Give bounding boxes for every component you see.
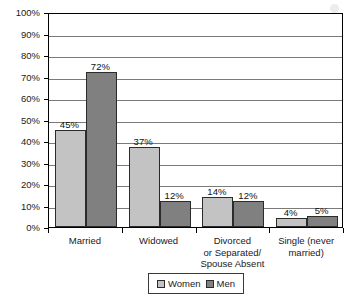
x-tick-mark xyxy=(196,228,197,233)
x-category-label-line: Single (never xyxy=(259,235,353,247)
bar-value-label: 14% xyxy=(201,186,233,197)
y-tick-label: 90% xyxy=(21,29,40,40)
bar-women-0[interactable] xyxy=(55,130,86,227)
y-tick-label: 20% xyxy=(21,179,40,190)
legend-swatch-women xyxy=(157,280,165,288)
scan-artifact xyxy=(330,4,339,13)
bar-value-label: 37% xyxy=(127,136,159,147)
y-tick-label: 30% xyxy=(21,158,40,169)
y-tick-label: 40% xyxy=(21,136,40,147)
legend-swatch-men xyxy=(206,280,214,288)
gridline xyxy=(49,57,342,58)
x-category-label-line: married) xyxy=(259,247,353,259)
plot-area xyxy=(48,13,343,228)
x-category-label-line: Spouse Absent xyxy=(186,258,280,270)
x-tick-mark xyxy=(269,228,270,233)
y-tick-label: 50% xyxy=(21,115,40,126)
y-tick-label: 60% xyxy=(21,93,40,104)
bar-women-2[interactable] xyxy=(202,197,233,227)
bar-chart: Percent of Older Population 0%10%20%30%4… xyxy=(0,0,359,299)
x-tick-mark xyxy=(122,228,123,233)
bar-men-2[interactable] xyxy=(233,201,264,227)
bar-value-label: 12% xyxy=(232,190,264,201)
legend-label-men: Men xyxy=(217,278,235,289)
bar-value-label: 72% xyxy=(84,61,116,72)
x-tick-mark xyxy=(48,228,49,233)
legend-item-men[interactable]: Men xyxy=(206,278,235,289)
x-category-label: Single (nevermarried) xyxy=(259,235,353,258)
bar-women-1[interactable] xyxy=(129,147,160,227)
bar-men-0[interactable] xyxy=(86,72,117,227)
y-tick-label: 100% xyxy=(16,7,40,18)
gridline xyxy=(49,36,342,37)
bar-women-3[interactable] xyxy=(276,218,307,227)
y-tick-label: 80% xyxy=(21,50,40,61)
y-tick-label: 70% xyxy=(21,72,40,83)
bar-value-label: 5% xyxy=(306,205,338,216)
x-tick-mark xyxy=(343,228,344,233)
legend: Women Men xyxy=(148,273,244,294)
bar-value-label: 4% xyxy=(275,207,307,218)
legend-item-women[interactable]: Women xyxy=(157,278,201,289)
bar-value-label: 12% xyxy=(158,190,190,201)
bar-men-3[interactable] xyxy=(307,216,338,227)
legend-label-women: Women xyxy=(168,278,201,289)
bar-men-1[interactable] xyxy=(160,201,191,227)
bar-value-label: 45% xyxy=(53,119,85,130)
y-tick-label: 0% xyxy=(26,222,40,233)
y-tick-label: 10% xyxy=(21,201,40,212)
